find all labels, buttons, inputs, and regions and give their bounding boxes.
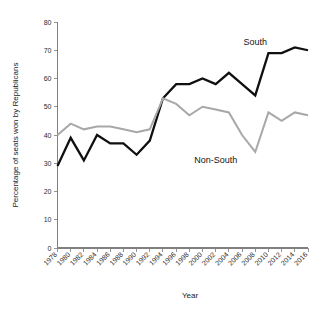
x-tick-label: 1996 [161,251,177,267]
x-tick-label: 2008 [240,251,256,267]
x-tick-label: 1978 [42,251,58,267]
y-tick-label: 10 [44,216,52,223]
series-line-non-south [58,98,309,152]
y-tick-label: 30 [44,160,52,167]
y-tick-label: 80 [44,19,52,26]
x-tick-label: 2010 [253,251,269,267]
y-tick-label: 0 [48,245,52,252]
y-axis-title: Percentage of seats won by Republicans [11,63,20,208]
x-tick-label: 2012 [266,251,282,267]
x-tick-label: 2004 [214,251,230,267]
x-tick-label: 1990 [121,251,137,267]
x-tick-label: 2016 [293,251,309,267]
x-tick-label: 1980 [55,251,71,267]
y-tick-label: 40 [44,132,52,139]
y-tick-label: 50 [44,103,52,110]
line-chart: 01020304050607080 1978198019821984198619… [0,0,322,310]
series-label-non-south: Non-South [194,155,237,165]
series-label-south: South [243,37,267,47]
y-tick-label: 70 [44,47,52,54]
x-tick-label: 1994 [148,251,164,267]
data-series-group [58,47,309,166]
x-axis-ticks: 1978198019821984198619881990199219941996… [42,248,309,267]
series-annotations: SouthNon-South [194,37,267,166]
x-tick-label: 1984 [82,251,98,267]
series-line-south [58,47,309,166]
x-tick-label: 2014 [280,251,296,267]
x-tick-label: 2006 [227,251,243,267]
y-tick-label: 60 [44,75,52,82]
y-axis-ticks: 01020304050607080 [44,19,58,252]
x-tick-label: 1982 [69,251,85,267]
x-tick-label: 1986 [95,251,111,267]
chart-figure: 01020304050607080 1978198019821984198619… [0,0,322,310]
x-tick-label: 1988 [108,251,124,267]
x-tick-label: 2002 [200,251,216,267]
x-tick-label: 2000 [187,251,203,267]
x-axis-title: Year [182,291,199,300]
x-tick-label: 1992 [135,251,151,267]
y-tick-label: 20 [44,188,52,195]
x-tick-label: 1998 [174,251,190,267]
